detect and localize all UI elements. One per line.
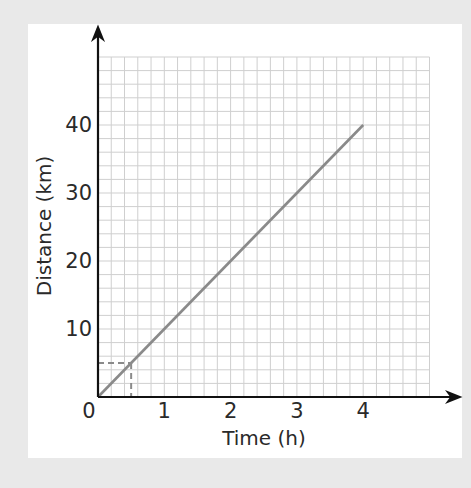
distance-time-chart: 123410203040 0 Time (h) Distance (km) (0, 0, 471, 488)
origin-label: 0 (82, 399, 95, 423)
x-tick-label: 2 (224, 399, 237, 423)
x-tick-label: 1 (158, 399, 171, 423)
y-tick-label: 20 (65, 249, 92, 273)
y-axis-title: Distance (km) (32, 156, 56, 296)
y-tick-label: 40 (65, 113, 92, 137)
x-tick-label: 3 (290, 399, 303, 423)
y-tick-label: 30 (65, 181, 92, 205)
y-tick-label: 10 (65, 317, 92, 341)
x-axis-title: Time (h) (221, 426, 306, 450)
x-tick-label: 4 (357, 399, 370, 423)
